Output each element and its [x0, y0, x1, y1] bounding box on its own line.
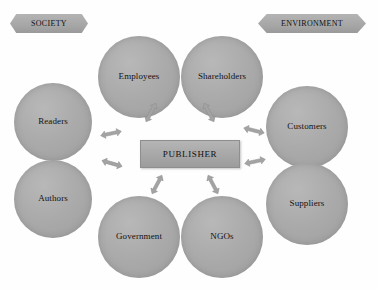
center-publisher-label: PUBLISHER — [163, 149, 217, 159]
node-suppliers-label: Suppliers — [290, 199, 325, 208]
node-shareholders[interactable]: Shareholders — [181, 36, 263, 118]
node-authors[interactable]: Authors — [14, 160, 92, 238]
node-government-label: Government — [116, 232, 162, 241]
double-arrow-icon-customers — [242, 123, 266, 137]
banner-environment-label: ENVIRONMENT — [281, 19, 343, 28]
node-ngos[interactable]: NGOs — [181, 196, 263, 278]
node-employees[interactable]: Employees — [98, 36, 180, 118]
node-readers-label: Readers — [38, 117, 68, 126]
double-arrow-icon-government — [148, 173, 166, 197]
node-customers[interactable]: Customers — [266, 86, 348, 168]
double-arrow-icon-suppliers — [243, 155, 266, 168]
double-arrow-icon-authors — [100, 156, 124, 171]
stakeholder-diagram: SOCIETY ENVIRONMENT Employees Shareholde… — [0, 0, 378, 290]
banner-environment: ENVIRONMENT — [258, 14, 366, 33]
node-employees-label: Employees — [119, 72, 160, 81]
node-ngos-label: NGOs — [210, 232, 233, 241]
center-publisher-box[interactable]: PUBLISHER — [140, 140, 240, 168]
double-arrow-icon-readers — [99, 127, 122, 140]
node-customers-label: Customers — [287, 122, 326, 131]
node-suppliers[interactable]: Suppliers — [266, 163, 348, 245]
banner-society-label: SOCIETY — [31, 19, 67, 28]
double-arrow-icon-ngos — [204, 173, 222, 197]
node-government[interactable]: Government — [98, 196, 180, 278]
node-authors-label: Authors — [38, 194, 68, 203]
node-readers[interactable]: Readers — [14, 83, 92, 161]
node-shareholders-label: Shareholders — [198, 72, 246, 81]
banner-society: SOCIETY — [10, 14, 88, 33]
